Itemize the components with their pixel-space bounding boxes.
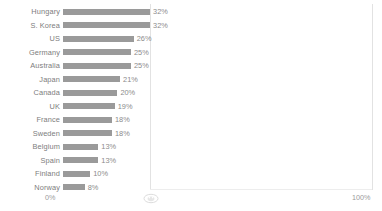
bar-row[interactable]: Finland10% [0, 167, 382, 181]
x-axis-tick-min: 0% [45, 194, 55, 201]
bar-category-label: Germany [0, 49, 63, 56]
bar-category-label: France [0, 116, 63, 123]
bar-value-label: 32% [153, 8, 168, 15]
bar-track: 18% [63, 127, 382, 141]
bar[interactable] [63, 49, 131, 55]
bar-value-label: 13% [101, 157, 116, 164]
bar-category-label: Hungary [0, 8, 63, 15]
bar-category-label: Finland [0, 170, 63, 177]
bar[interactable] [63, 63, 131, 69]
bar-row[interactable]: France18% [0, 113, 382, 127]
bar-row[interactable]: Hungary32% [0, 5, 382, 19]
bar-track: 18% [63, 113, 382, 127]
x-axis: 0% 100% [0, 192, 382, 206]
bar-value-label: 10% [93, 170, 108, 177]
bar-row[interactable]: Japan21% [0, 73, 382, 87]
bar-track: 32% [63, 5, 382, 19]
bar-track: 25% [63, 46, 382, 60]
bar-track: 13% [63, 140, 382, 154]
bar-value-label: 32% [153, 22, 168, 29]
bar-category-label: Belgium [0, 143, 63, 150]
bar[interactable] [63, 76, 120, 82]
bar[interactable] [63, 117, 112, 123]
bar[interactable] [63, 171, 90, 177]
bar[interactable] [63, 9, 150, 15]
bar-value-label: 19% [118, 103, 133, 110]
bar-row[interactable]: Canada20% [0, 86, 382, 100]
bar-track: 20% [63, 86, 382, 100]
bar[interactable] [63, 103, 115, 109]
bar-category-label: Sweden [0, 130, 63, 137]
bar-value-label: 18% [115, 130, 130, 137]
bar-category-label: Spain [0, 157, 63, 164]
bar-chart: Hungary32%S. Korea32%US26%Germany25%Aust… [0, 0, 382, 211]
bar-value-label: 20% [120, 89, 135, 96]
bar-track: 32% [63, 19, 382, 33]
bar-track: 21% [63, 73, 382, 87]
bar[interactable] [63, 144, 98, 150]
bar-value-label: 8% [88, 184, 99, 191]
bar-category-label: S. Korea [0, 22, 63, 29]
bar-track: 25% [63, 59, 382, 73]
bar[interactable] [63, 130, 112, 136]
bar-track: 26% [63, 32, 382, 46]
bar-value-label: 25% [134, 62, 149, 69]
oval-marker-icon [143, 193, 159, 204]
bar-category-label: Japan [0, 76, 63, 83]
bar-category-label: US [0, 35, 63, 42]
bar-value-label: 13% [101, 143, 116, 150]
bar-value-label: 25% [134, 49, 149, 56]
bar-row[interactable]: Australia25% [0, 59, 382, 73]
bar[interactable] [63, 36, 134, 42]
bar[interactable] [63, 90, 117, 96]
bar-category-label: Canada [0, 89, 63, 96]
x-axis-tick-max: 100% [352, 194, 370, 201]
bar-track: 13% [63, 154, 382, 168]
bar-category-label: Australia [0, 62, 63, 69]
bar[interactable] [63, 184, 85, 190]
bar-value-label: 18% [115, 116, 130, 123]
bar-value-label: 26% [137, 35, 152, 42]
bar[interactable] [63, 22, 150, 28]
bar-row[interactable]: Belgium13% [0, 140, 382, 154]
bar-row[interactable]: Germany25% [0, 46, 382, 60]
bar-row[interactable]: US26% [0, 32, 382, 46]
bar-row[interactable]: S. Korea32% [0, 19, 382, 33]
bar-rows: Hungary32%S. Korea32%US26%Germany25%Aust… [0, 5, 382, 194]
bar-row[interactable]: Sweden18% [0, 127, 382, 141]
bar-track: 10% [63, 167, 382, 181]
bar[interactable] [63, 157, 98, 163]
bar-category-label: Norway [0, 184, 63, 191]
bar-category-label: UK [0, 103, 63, 110]
bar-value-label: 21% [123, 76, 138, 83]
bar-row[interactable]: UK19% [0, 100, 382, 114]
bar-track: 19% [63, 100, 382, 114]
bar-row[interactable]: Spain13% [0, 154, 382, 168]
